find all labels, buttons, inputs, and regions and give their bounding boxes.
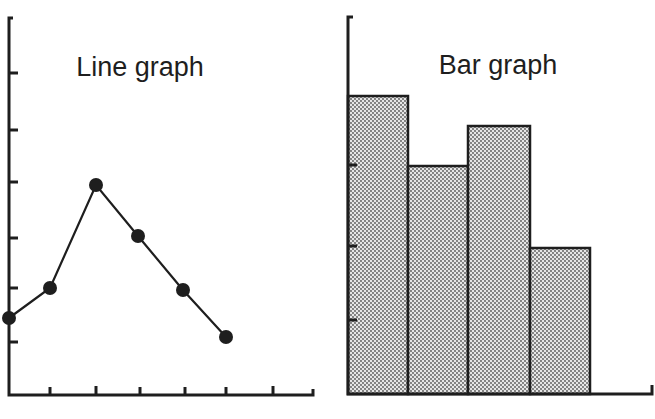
line-series [9,185,226,337]
line-graph: Line graph [2,18,313,395]
line-graph-title: Line graph [76,52,204,82]
bar-graph-title: Bar graph [439,50,558,80]
bar-4 [530,248,590,394]
bar-2 [408,166,468,394]
bars [348,96,590,394]
charts-canvas: Line graph Bar graph [0,0,655,419]
bar-3 [468,126,530,394]
line-markers [2,178,233,344]
bar-graph: Bar graph [348,17,652,394]
